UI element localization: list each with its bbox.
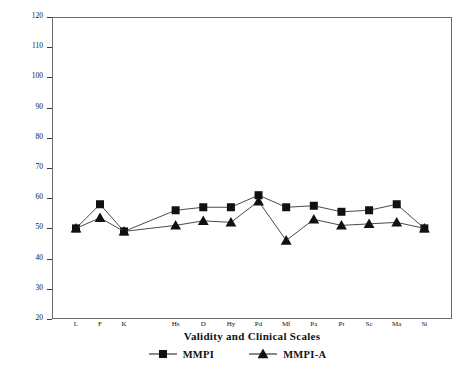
y-tick-label: 100 (32, 71, 43, 80)
legend-triangle-icon (248, 347, 278, 361)
y-tick-label: 40 (36, 253, 44, 262)
y-tick-label: 110 (32, 41, 43, 50)
y-tick-label: 70 (36, 162, 44, 171)
y-tick-label: 60 (36, 192, 44, 201)
x-axis-title: Validity and Clinical Scales (52, 330, 452, 342)
legend-label: MMPI-A (283, 349, 326, 360)
legend-item-mmpi[interactable]: MMPI (148, 347, 215, 361)
x-tick-label: K (102, 320, 146, 328)
y-axis-label-container: T - Scores (0, 0, 52, 319)
y-tick-label: 20 (36, 313, 44, 322)
y-tick-label: 50 (36, 222, 44, 231)
legend-item-mmpi-a[interactable]: MMPI-A (248, 347, 326, 361)
chart-canvas: T - Scores 2030405060708090100110120LFKH… (0, 0, 474, 378)
x-tick-label: Si (402, 320, 446, 328)
legend-square-icon (148, 347, 178, 361)
y-tick-label: 120 (32, 11, 43, 20)
chart-legend: MMPIMMPI-A (0, 347, 474, 361)
y-tick-label: 90 (36, 102, 44, 111)
y-tick-label: 80 (36, 132, 44, 141)
plot-frame (52, 17, 452, 319)
y-tick-mark (47, 319, 52, 320)
legend-label: MMPI (183, 349, 215, 360)
y-tick-label: 30 (36, 283, 44, 292)
